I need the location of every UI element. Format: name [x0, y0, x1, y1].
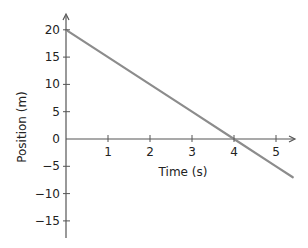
data-series: [66, 30, 293, 177]
position-time-chart: 12345 20151050−5−10−15 Time (s) Position…: [0, 0, 308, 248]
y-axis-label: Position (m): [15, 91, 29, 163]
x-axis-label: Time (s): [158, 165, 208, 179]
x-tick-label: 5: [272, 145, 280, 159]
y-tick-label: −5: [42, 159, 60, 173]
x-tick-label: 4: [230, 145, 238, 159]
y-tick-label: −15: [35, 214, 60, 228]
x-tick-label: 1: [104, 145, 112, 159]
y-tick-label: 10: [45, 77, 60, 91]
x-tick-label: 3: [188, 145, 196, 159]
y-axis-ticks: 20151050−5−10−15: [35, 23, 70, 228]
y-tick-label: 20: [45, 23, 60, 37]
y-tick-label: 15: [45, 50, 60, 64]
y-tick-label: 5: [52, 105, 60, 119]
axes: [63, 14, 295, 238]
series-line-position: [66, 30, 293, 177]
x-tick-label: 2: [146, 145, 154, 159]
y-tick-label: 0: [52, 132, 60, 146]
y-tick-label: −10: [35, 187, 60, 201]
